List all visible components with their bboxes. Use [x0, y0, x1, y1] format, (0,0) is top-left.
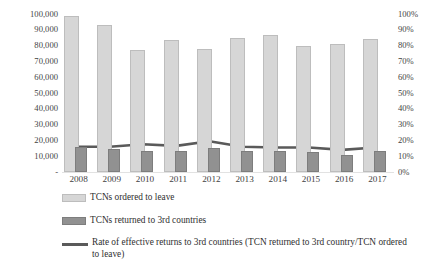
y-axis-right-tick: 40%	[398, 104, 438, 113]
y-axis-right-tick: 30%	[398, 120, 438, 129]
bar-group	[128, 14, 161, 172]
legend-item-returned: TCNs returned to 3rd countries	[62, 215, 432, 227]
bar-returned-to-3rd-countries	[241, 151, 253, 172]
bar-ordered-to-leave	[330, 44, 345, 172]
y-axis-left-tick: 60,000	[0, 73, 58, 82]
bar-returned-to-3rd-countries	[274, 151, 286, 172]
legend-swatch-rate-line-icon	[62, 239, 88, 246]
y-axis-right-tick: 10%	[398, 152, 438, 161]
bar-returned-to-3rd-countries	[108, 149, 120, 172]
plot-area	[62, 14, 394, 172]
chart-container: -10,00020,00030,00040,00050,00060,00070,…	[0, 0, 443, 273]
bar-group	[95, 14, 128, 172]
bar-group	[228, 14, 261, 172]
x-axis-tick-2011: 2011	[162, 174, 195, 184]
legend-label-rate: Rate of effective returns to 3rd countri…	[92, 237, 410, 260]
y-axis-right-tick: 50%	[398, 89, 438, 98]
x-axis-tick-2017: 2017	[361, 174, 394, 184]
y-axis-left-tick: 40,000	[0, 104, 58, 113]
x-axis-tick-2008: 2008	[62, 174, 95, 184]
legend-swatch-ordered-icon	[62, 194, 86, 202]
bar-returned-to-3rd-countries	[307, 152, 319, 172]
y-axis-right-tick: 100%	[398, 10, 438, 19]
y-axis-left-tick: 80,000	[0, 41, 58, 50]
y-axis-right-tick: 20%	[398, 136, 438, 145]
x-axis-tick-2016: 2016	[328, 174, 361, 184]
x-axis-tick-2012: 2012	[195, 174, 228, 184]
x-axis-tick-2014: 2014	[261, 174, 294, 184]
y-axis-right-tick: 0%	[398, 168, 438, 177]
bar-returned-to-3rd-countries	[374, 151, 386, 172]
x-axis-tick-2009: 2009	[95, 174, 128, 184]
y-axis-right-tick: 60%	[398, 73, 438, 82]
y-axis-left: -10,00020,00030,00040,00050,00060,00070,…	[0, 0, 58, 273]
bar-group	[261, 14, 294, 172]
y-axis-left-tick: 90,000	[0, 25, 58, 34]
x-axis-tick-2013: 2013	[228, 174, 261, 184]
y-axis-left-tick: -	[0, 168, 58, 177]
legend-item-ordered: TCNs ordered to leave	[62, 192, 432, 204]
y-axis-left-tick: 20,000	[0, 136, 58, 145]
axis-baseline	[62, 172, 394, 173]
bar-group	[361, 14, 394, 172]
bar-returned-to-3rd-countries	[341, 155, 353, 172]
legend-item-rate: Rate of effective returns to 3rd countri…	[62, 237, 432, 260]
y-axis-left-tick: 10,000	[0, 152, 58, 161]
x-axis-labels: 2008200920102011201220132014201520162017	[62, 174, 394, 188]
chart-legend: TCNs ordered to leave TCNs returned to 3…	[62, 192, 432, 271]
bar-returned-to-3rd-countries	[208, 148, 220, 172]
bar-group	[328, 14, 361, 172]
bar-group	[195, 14, 228, 172]
y-axis-left-tick: 50,000	[0, 89, 58, 98]
x-axis-tick-2010: 2010	[128, 174, 161, 184]
y-axis-left-tick: 30,000	[0, 120, 58, 129]
bar-returned-to-3rd-countries	[141, 151, 153, 172]
bar-returned-to-3rd-countries	[175, 151, 187, 172]
y-axis-left-tick: 70,000	[0, 57, 58, 66]
y-axis-left-tick: 100,000	[0, 10, 58, 19]
x-axis-tick-2015: 2015	[294, 174, 327, 184]
legend-swatch-returned-icon	[62, 217, 86, 225]
bar-group	[162, 14, 195, 172]
legend-label-ordered: TCNs ordered to leave	[90, 192, 174, 204]
bar-group	[294, 14, 327, 172]
bar-returned-to-3rd-countries	[75, 147, 87, 172]
y-axis-right-tick: 80%	[398, 41, 438, 50]
y-axis-right-tick: 70%	[398, 57, 438, 66]
y-axis-right-tick: 90%	[398, 25, 438, 34]
legend-label-returned: TCNs returned to 3rd countries	[90, 215, 206, 227]
bar-group	[62, 14, 95, 172]
